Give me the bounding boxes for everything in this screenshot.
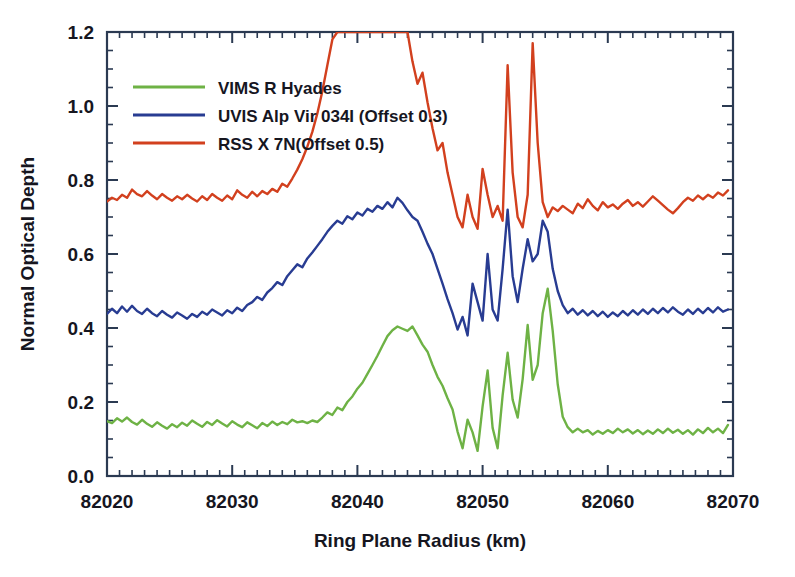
x-tick-label: 82070 bbox=[707, 491, 760, 512]
y-tick-label: 0.0 bbox=[68, 466, 94, 487]
chart-legend: VIMS R HyadesUVIS Alp Vir 034I (Offset 0… bbox=[133, 79, 448, 154]
y-tick-label: 0.6 bbox=[68, 244, 94, 265]
y-tick-label: 1.2 bbox=[68, 22, 94, 43]
x-tick-label: 82020 bbox=[81, 491, 134, 512]
x-tick-label: 82040 bbox=[331, 491, 384, 512]
y-tick-label: 1.0 bbox=[68, 96, 94, 117]
x-tick-label: 82060 bbox=[581, 491, 634, 512]
x-tick-label: 82050 bbox=[456, 491, 509, 512]
series-line-1 bbox=[107, 198, 728, 336]
x-axis-ticks bbox=[107, 32, 733, 476]
legend-label-0: VIMS R Hyades bbox=[218, 79, 342, 98]
legend-label-2: RSS X 7N(Offset 0.5) bbox=[218, 135, 384, 154]
series-line-2 bbox=[107, 32, 728, 229]
x-tick-label: 82030 bbox=[206, 491, 259, 512]
y-tick-label: 0.2 bbox=[68, 392, 94, 413]
x-axis-label: Ring Plane Radius (km) bbox=[314, 530, 526, 551]
y-tick-label: 0.8 bbox=[68, 170, 94, 191]
y-axis-ticks bbox=[107, 32, 733, 476]
chart-figure: 820208203082040820508206082070 0.00.20.4… bbox=[0, 0, 795, 577]
chart-canvas: 820208203082040820508206082070 0.00.20.4… bbox=[0, 0, 795, 577]
x-axis-tick-labels: 820208203082040820508206082070 bbox=[81, 491, 760, 512]
plot-frame bbox=[107, 32, 733, 476]
y-axis-label: Normal Optical Depth bbox=[17, 157, 38, 351]
legend-label-1: UVIS Alp Vir 034I (Offset 0.3) bbox=[218, 107, 448, 126]
data-series-group bbox=[107, 32, 728, 451]
y-axis-tick-labels: 0.00.20.40.60.81.01.2 bbox=[68, 22, 95, 487]
y-tick-label: 0.4 bbox=[68, 318, 95, 339]
